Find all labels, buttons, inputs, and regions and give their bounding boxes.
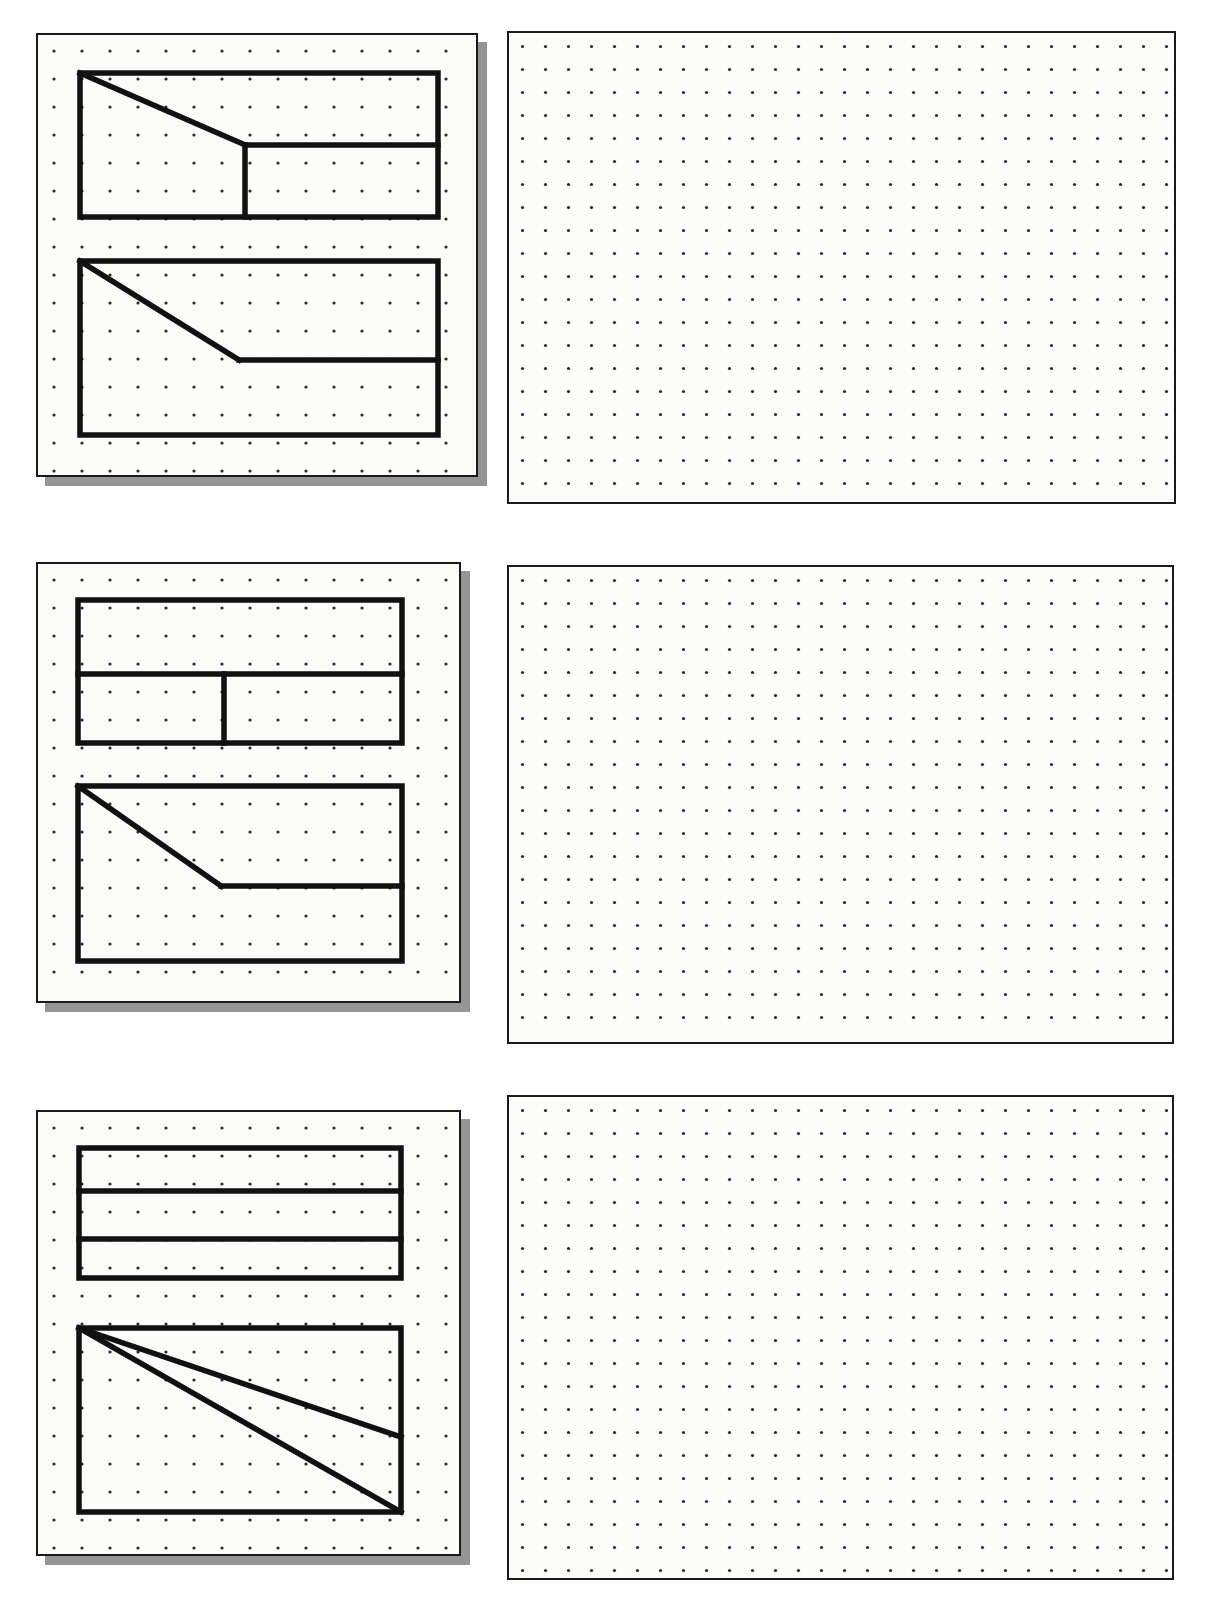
front-view-outline xyxy=(78,786,402,961)
given-views-panel xyxy=(36,562,461,1003)
front-view-outline xyxy=(80,261,438,435)
dot-grid xyxy=(509,33,1174,502)
problem-row xyxy=(0,1063,1230,1598)
dot-grid xyxy=(509,567,1172,1042)
given-views-drawing xyxy=(38,564,459,1001)
front-view xyxy=(79,1328,401,1512)
answer-grid-panel[interactable] xyxy=(507,565,1174,1044)
top-view xyxy=(79,1148,401,1278)
top-view xyxy=(80,73,438,217)
front-view xyxy=(80,261,438,435)
front-view xyxy=(78,786,402,961)
problem-row xyxy=(0,0,1230,530)
top-view xyxy=(78,600,402,743)
top-view-outline xyxy=(79,1148,401,1278)
worksheet-page xyxy=(0,0,1230,1598)
answer-grid-panel[interactable] xyxy=(507,1095,1174,1580)
top-view-diagonal-cut xyxy=(80,73,245,145)
front-view-diagonal-cut xyxy=(78,786,221,886)
given-views-drawing xyxy=(38,1112,459,1554)
given-views-drawing xyxy=(38,35,476,475)
problem-row xyxy=(0,530,1230,1063)
dot-grid xyxy=(509,1097,1172,1578)
given-views-panel xyxy=(36,33,478,477)
answer-grid-panel[interactable] xyxy=(507,31,1176,504)
given-views-panel xyxy=(36,1110,461,1556)
front-view-diagonal-cut xyxy=(80,261,239,360)
